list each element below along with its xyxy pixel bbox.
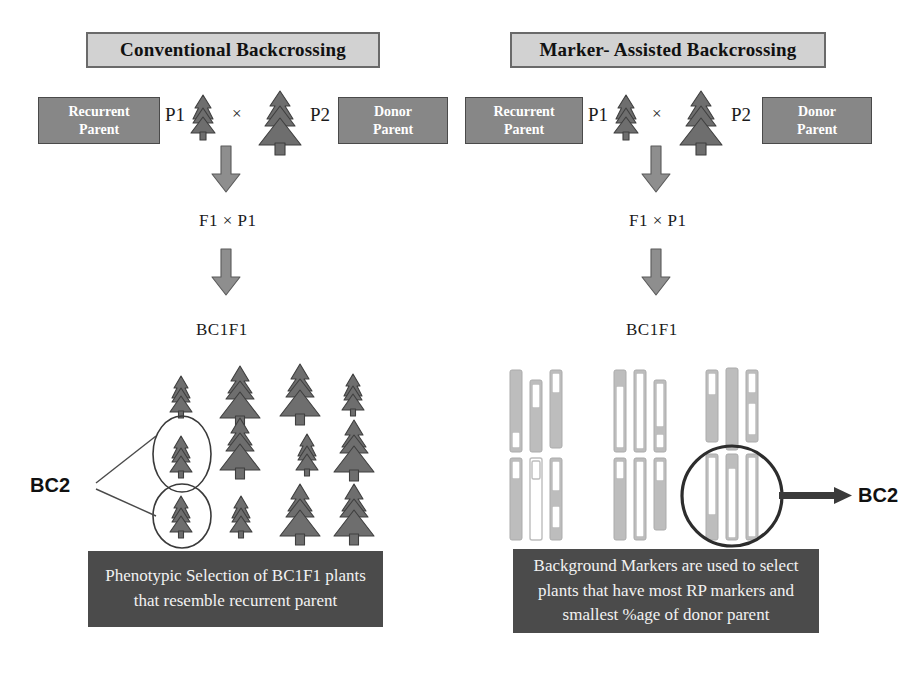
note-conventional-line1: Phenotypic Selection of BC1F1 plants [105, 564, 366, 589]
chromosome-group-1 [510, 370, 562, 540]
note-box-conventional: Phenotypic Selection of BC1F1 plants tha… [88, 551, 383, 627]
p2-label-conventional: P2 [310, 104, 330, 126]
donor-parent-line1: Donor [798, 103, 836, 121]
recurrent-parent-line2: Parent [79, 121, 119, 139]
generation-label-conventional-f1: F1 × P1 [199, 211, 257, 231]
flow-arrow-marker-assisted-2 [640, 249, 672, 297]
bc2-selection-label-marker-assisted: BC2 [858, 484, 898, 507]
flow-arrow-marker-assisted-1 [640, 146, 672, 194]
flow-arrow-conventional-2 [210, 249, 242, 297]
flow-arrow-conventional-1 [210, 146, 242, 194]
bc2-pointer-arrow [779, 487, 852, 504]
note-box-marker-assisted: Background Markers are used to select pl… [513, 549, 819, 633]
panel-heading-conventional: Conventional Backcrossing [86, 32, 380, 68]
note-marker-assisted-line2: plants that have most RP markers and [538, 579, 794, 604]
recurrent-parent-line1: Recurrent [493, 103, 554, 121]
p2-label-marker-assisted: P2 [731, 104, 751, 126]
note-conventional-line2: that resemble recurrent parent [134, 589, 337, 614]
p1-label-marker-assisted: P1 [588, 104, 608, 126]
diagram-canvas: Conventional Backcrossing Recurrent Pare… [0, 0, 899, 680]
note-marker-assisted-line1: Background Markers are used to select [534, 554, 799, 579]
chromosome-group-3 [706, 368, 758, 540]
progeny-chromosome-bars-marker-assisted [486, 358, 886, 553]
p2-tree-marker-assisted [673, 88, 729, 160]
recurrent-parent-box-conventional: Recurrent Parent [38, 97, 160, 144]
recurrent-parent-box-marker-assisted: Recurrent Parent [465, 97, 583, 144]
progeny-tree-grid-conventional [28, 356, 400, 546]
donor-parent-box-marker-assisted: Donor Parent [762, 97, 872, 144]
recurrent-parent-line1: Recurrent [68, 103, 129, 121]
cross-symbol-marker-assisted: × [652, 104, 662, 124]
note-marker-assisted-line3: smallest %age of donor parent [563, 603, 770, 628]
generation-label-marker-assisted-bc1f1: BC1F1 [626, 320, 678, 340]
p1-label-conventional: P1 [165, 104, 185, 126]
generation-label-conventional-bc1f1: BC1F1 [196, 320, 248, 340]
donor-parent-box-conventional: Donor Parent [338, 97, 448, 144]
p1-tree-conventional [186, 92, 220, 144]
cross-symbol-conventional: × [232, 104, 242, 124]
bc2-selection-label-conventional: BC2 [30, 474, 70, 497]
recurrent-parent-line2: Parent [504, 121, 544, 139]
generation-label-marker-assisted-f1: F1 × P1 [629, 211, 687, 231]
p1-tree-marker-assisted [609, 92, 643, 144]
chromosome-group-2 [614, 370, 666, 540]
panel-heading-marker-assisted: Marker- Assisted Backcrossing [510, 32, 826, 68]
p2-tree-conventional [252, 88, 308, 160]
donor-parent-line2: Parent [797, 121, 837, 139]
donor-parent-line1: Donor [374, 103, 412, 121]
donor-parent-line2: Parent [373, 121, 413, 139]
